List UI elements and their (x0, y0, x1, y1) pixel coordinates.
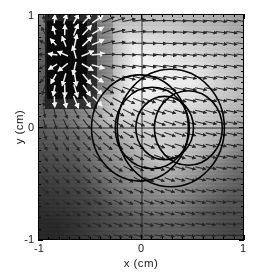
grain-line (39, 49, 243, 50)
grain-line (39, 100, 243, 101)
y-tick (38, 138, 41, 139)
x-tick (120, 237, 121, 240)
x-tick (100, 237, 101, 240)
grain-line (39, 130, 243, 131)
grain-line (39, 209, 243, 210)
grain-line (39, 179, 243, 180)
grain-line (39, 86, 243, 87)
y-tick (38, 195, 41, 196)
y-tick-right (239, 127, 244, 128)
grain-line (39, 118, 243, 119)
grain-line (39, 189, 243, 190)
y-tick-right (239, 14, 244, 15)
x-tick-top (162, 14, 163, 17)
grain-line (39, 187, 243, 188)
grain-line (39, 84, 243, 85)
x-axis-title: x (cm) (124, 257, 158, 269)
x-tick-label-mid: 0 (138, 242, 144, 254)
grain-line (39, 104, 243, 105)
grain-line (39, 191, 243, 192)
x-tick (90, 237, 91, 240)
grain-line (39, 181, 243, 182)
y-tick (38, 217, 41, 218)
grain-line (39, 156, 243, 157)
y-tick-label-min: -1 (14, 233, 34, 245)
grain-line (39, 39, 243, 40)
x-tick-top (79, 14, 80, 17)
x-tick-top (110, 14, 111, 17)
x-tick (162, 237, 163, 240)
grain-line (39, 120, 243, 121)
grain-line (39, 76, 243, 77)
y-axis-title: y (cm) (13, 110, 25, 144)
y-tick-right (241, 104, 244, 105)
grain-line (39, 122, 243, 123)
y-tick-right (241, 37, 244, 38)
x-tick (48, 237, 49, 240)
y-tick-right (241, 229, 244, 230)
y-tick-label-max: 1 (14, 9, 34, 21)
grain-line (39, 23, 243, 24)
grain-line (39, 63, 243, 64)
grain-line (39, 158, 243, 159)
grain-line (39, 29, 243, 30)
grain-line (39, 197, 243, 198)
grain-line (39, 150, 243, 151)
grain-line (39, 227, 243, 228)
grain-line (39, 144, 243, 145)
x-tick (213, 237, 214, 240)
grain-line (39, 51, 243, 52)
grain-line (39, 53, 243, 54)
grain-line (39, 126, 243, 127)
grain-line (39, 31, 243, 32)
y-tick (38, 14, 43, 15)
y-tick (38, 116, 41, 117)
y-tick-right (239, 240, 244, 241)
grain-line (39, 162, 243, 163)
grain-line (39, 88, 243, 89)
y-tick-right (241, 150, 244, 151)
grain-line (39, 98, 243, 99)
x-tick-top (141, 14, 142, 19)
x-tick (234, 237, 235, 240)
y-tick-right (241, 82, 244, 83)
grain-line (39, 169, 243, 170)
grain-line (39, 221, 243, 222)
grain-line (39, 108, 243, 109)
x-tick (110, 237, 111, 240)
y-tick-right (241, 93, 244, 94)
y-tick (38, 104, 41, 105)
y-tick-right (241, 138, 244, 139)
y-tick (38, 71, 41, 72)
x-tick (172, 237, 173, 240)
grain-line (39, 223, 243, 224)
grain-line (39, 171, 243, 172)
grain-line (39, 37, 243, 38)
y-tick-right (241, 217, 244, 218)
grain-line (39, 215, 243, 216)
x-tick-top (131, 14, 132, 17)
y-tick-right (241, 71, 244, 72)
y-tick (38, 172, 41, 173)
x-tick-top (59, 14, 60, 17)
grain-line (39, 82, 243, 83)
x-tick (182, 237, 183, 240)
grain-line (39, 27, 243, 28)
grain-line (39, 148, 243, 149)
x-tick-label-max: 1 (240, 242, 246, 254)
x-tick-top (182, 14, 183, 17)
grain-line (39, 114, 243, 115)
grain-line (39, 112, 243, 113)
grain-line (39, 45, 243, 46)
x-tick (79, 237, 80, 240)
grain-line (39, 33, 243, 34)
grain-line (39, 102, 243, 103)
grain-line (39, 57, 243, 58)
x-tick (203, 237, 204, 240)
grain-line (39, 177, 243, 178)
y-tick (38, 93, 41, 94)
grain-line (39, 72, 243, 73)
grain-line (39, 92, 243, 93)
grain-line (39, 41, 243, 42)
grain-line (39, 96, 243, 97)
